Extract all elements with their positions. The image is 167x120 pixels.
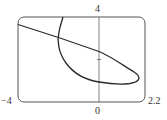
plot-area: [0, 0, 167, 120]
x-zero-label: 0: [95, 106, 100, 116]
curve-series: [18, 17, 139, 84]
y-max-label: 4: [95, 4, 100, 14]
x-max-label: 2.2: [148, 96, 161, 106]
plot-frame: [18, 17, 145, 102]
x-min-label: −4: [1, 96, 12, 106]
